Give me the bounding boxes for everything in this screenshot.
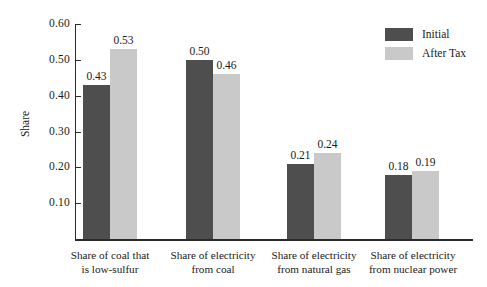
bar-chart: Share 0.60 0.50 0.40 0.30 0.20 0.10 0.43… [0,0,487,287]
bar-value-initial-2: 0.21 [287,150,314,162]
y-tick-0.60 [75,24,81,25]
y-tick-label-0.60: 0.60 [0,18,70,30]
bar-value-after-1: 0.46 [213,60,240,72]
bar-initial-0 [83,85,110,239]
y-tick-label-0.10: 0.10 [0,197,70,209]
legend-label-initial: Initial [422,27,449,41]
y-tick-0.10 [75,203,81,204]
bar-value-initial-1: 0.50 [186,46,213,58]
bar-initial-1 [186,60,213,239]
bar-value-after-2: 0.24 [314,139,341,151]
legend-label-after-tax: After Tax [422,46,466,60]
y-tick-0.20 [75,167,81,168]
bar-value-after-0: 0.53 [110,35,137,47]
bar-initial-3 [385,175,412,240]
x-axis-group-label-0-line2: is low-sulfur [50,262,170,276]
y-axis-title: Share [19,94,31,154]
x-axis-group-label-3: Share of electricity from nuclear power [353,248,473,276]
y-tick-0.50 [75,60,81,61]
bar-after-0 [110,49,137,239]
y-tick-label-0.20: 0.20 [0,161,70,173]
bar-after-3 [412,171,439,239]
bar-value-after-3: 0.19 [412,157,439,169]
bar-value-initial-3: 0.18 [385,161,412,173]
x-axis-group-label-3-line2: from nuclear power [353,262,473,276]
x-axis-line [75,239,473,241]
x-axis-group-label-0-line1: Share of coal that [50,248,170,262]
y-tick-0.30 [75,132,81,133]
legend-swatch-initial [385,28,413,41]
bar-initial-2 [287,164,314,239]
x-axis-group-label-3-line1: Share of electricity [353,248,473,262]
y-tick-label-0.40: 0.40 [0,90,70,102]
bar-after-1 [213,74,240,239]
y-tick-label-0.30: 0.30 [0,126,70,138]
bar-value-initial-0: 0.43 [83,71,110,83]
x-axis-group-label-0: Share of coal that is low-sulfur [50,248,170,276]
legend-swatch-after-tax [385,47,413,60]
y-tick-0.40 [75,96,81,97]
bar-after-2 [314,153,341,239]
y-tick-label-0.50: 0.50 [0,54,70,66]
